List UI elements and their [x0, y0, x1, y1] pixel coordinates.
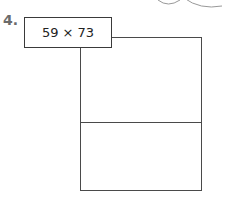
decorative-curve-icon [150, 0, 227, 10]
area-model-divider [81, 122, 201, 123]
area-model-grid [80, 37, 202, 191]
expression-label: 59 × 73 [24, 17, 112, 48]
expression-text: 59 × 73 [42, 25, 94, 40]
problem-number: 4. [3, 12, 18, 28]
